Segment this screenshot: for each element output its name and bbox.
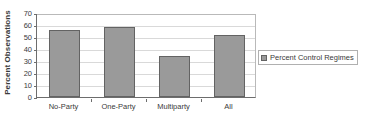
x-axis-tick-mark <box>91 99 92 102</box>
y-axis-tick-label: 30 <box>24 58 32 66</box>
y-axis-tick-mark <box>34 62 37 63</box>
y-axis-tick-label: 60 <box>24 22 32 30</box>
y-axis-tick-label: 0 <box>28 94 32 102</box>
x-axis-tick-mark <box>201 99 202 102</box>
legend-color-swatch <box>261 55 267 61</box>
x-axis-tick-label: All <box>201 102 256 111</box>
y-axis-tick-labels: 706050403020100 <box>14 10 34 102</box>
y-axis-tick-label: 10 <box>24 82 32 90</box>
x-axis-tick-label: No-Party <box>36 102 91 111</box>
bar-all <box>214 35 245 97</box>
y-axis-tick-mark <box>34 98 37 99</box>
bar-no-party <box>49 30 80 97</box>
y-axis-tick-mark <box>34 14 37 15</box>
bar-chart-figure: Percent Observations 706050403020100 No-… <box>0 0 370 126</box>
y-axis-tick-mark <box>34 74 37 75</box>
y-axis-tick-mark <box>34 50 37 51</box>
legend-item-label: Percent Control Regimes <box>270 53 354 62</box>
y-axis-tick-mark <box>34 38 37 39</box>
y-axis-title: Percent Observations <box>0 0 14 104</box>
plot-area <box>36 14 256 98</box>
x-axis-tick-label: One-Party <box>91 102 146 111</box>
x-axis-tick-label: Multiparty <box>146 102 201 111</box>
x-axis-tick-labels: No-PartyOne-PartyMultipartyAll <box>36 100 256 116</box>
bar-multiparty <box>159 56 190 97</box>
y-axis-tick-mark <box>34 26 37 27</box>
y-axis-tick-mark <box>34 86 37 87</box>
y-axis-tick-label: 70 <box>24 10 32 18</box>
gridline <box>37 26 255 27</box>
bar-one-party <box>104 27 135 97</box>
y-axis-title-text: Percent Observations <box>3 10 12 95</box>
chart-legend: Percent Control Regimes <box>258 50 358 65</box>
y-axis-tick-label: 40 <box>24 46 32 54</box>
y-axis-tick-label: 50 <box>24 34 32 42</box>
y-axis-tick-label: 20 <box>24 70 32 78</box>
x-axis-tick-mark <box>146 99 147 102</box>
